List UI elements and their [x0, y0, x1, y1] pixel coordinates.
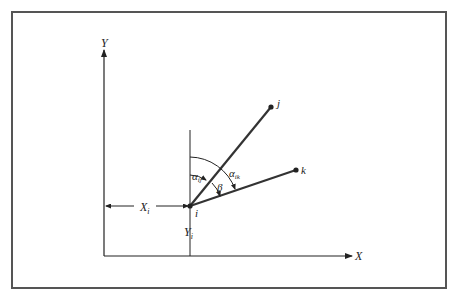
alpha-ij-label: αij: [192, 170, 202, 184]
point-k-label: k: [301, 164, 307, 176]
beta-label: β: [216, 181, 223, 193]
x-axis-label: X: [354, 249, 363, 263]
frame: [12, 12, 446, 288]
point-i-label: i: [195, 207, 198, 219]
point-k: [293, 167, 298, 172]
point-i: [187, 203, 192, 208]
alpha-ik-label: αik: [229, 167, 241, 181]
yi-label: Yi: [184, 225, 193, 241]
y-axis-label: Y: [101, 36, 109, 50]
xi-label: Xi: [139, 200, 150, 216]
coordinate-diagram: Y X Xi Yi i j k αij αik β: [0, 0, 453, 297]
point-j: [268, 104, 273, 109]
point-j-label: j: [275, 97, 280, 109]
